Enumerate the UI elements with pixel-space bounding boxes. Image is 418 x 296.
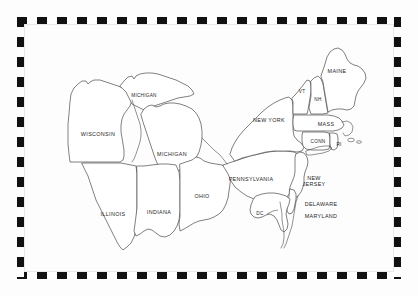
coast-detail-great-lakes xyxy=(132,100,141,162)
map-page: MICHIGANWISCONSINMICHIGANILLINOISINDIANA… xyxy=(0,0,418,296)
state-shape-michigan-upper-peninsula xyxy=(120,73,194,110)
state-label-maine: MAINE xyxy=(328,68,347,75)
frame-bottom-edge xyxy=(17,272,401,279)
state-label-michigan-up: MICHIGAN xyxy=(131,93,156,100)
state-label-ohio: OHIO xyxy=(194,193,209,200)
state-label-pennsylvania: PENNSYLVANIA xyxy=(229,176,274,183)
state-label-michigan-lp: MICHIGAN xyxy=(157,151,187,158)
state-label-maryland: MARYLAND xyxy=(305,213,338,220)
state-label-illinois: ILLINOIS xyxy=(101,211,126,218)
state-label-new-jersey: NEWJERSEY xyxy=(302,175,325,188)
state-label-district-of-columbia: DC xyxy=(256,211,263,218)
state-label-new-york: NEW YORK xyxy=(253,117,285,124)
coast-detail-lake-erie-shore xyxy=(202,138,227,164)
frame-right-edge xyxy=(394,17,401,279)
state-shape-vermont xyxy=(292,80,311,114)
state-shape-maine xyxy=(321,48,366,112)
state-label-vermont: VT xyxy=(299,89,306,96)
state-label-delaware: DELAWARE xyxy=(305,201,338,208)
state-shape-indiana xyxy=(134,164,180,237)
frame-top-edge xyxy=(17,17,401,24)
state-label-massachusetts: MASS xyxy=(318,121,335,128)
map-canvas: MICHIGANWISCONSINMICHIGANILLINOISINDIANA… xyxy=(24,24,394,272)
frame-left-edge xyxy=(17,17,24,279)
state-label-new-hampshire: NH xyxy=(314,97,321,104)
coast-detail-cape-cod xyxy=(342,121,353,136)
island-marthas-vineyard xyxy=(348,138,355,142)
state-label-rhode-island: RI xyxy=(336,142,341,149)
island-nantucket xyxy=(357,141,362,144)
state-label-connecticut: CONN xyxy=(311,139,326,146)
state-label-indiana: INDIANA xyxy=(147,209,171,216)
state-shape-illinois xyxy=(82,163,137,250)
state-shape-wisconsin xyxy=(68,80,132,162)
state-label-wisconsin: WISCONSIN xyxy=(81,131,115,138)
